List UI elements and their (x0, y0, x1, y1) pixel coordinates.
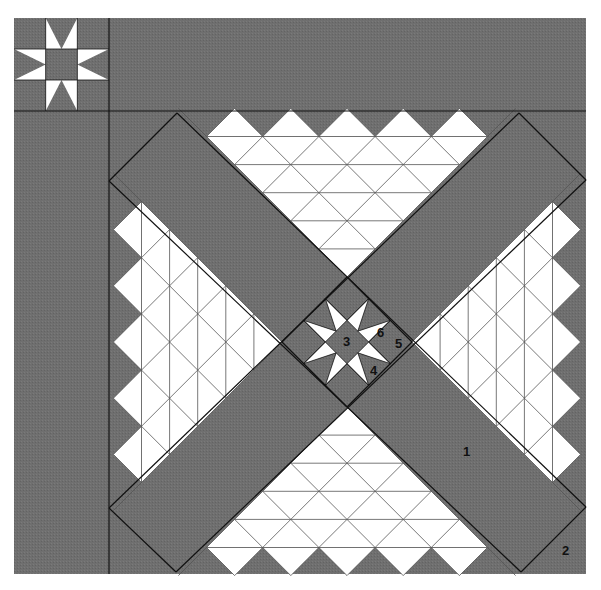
piece-label-2: 2 (562, 543, 569, 558)
piece-label-3: 3 (343, 334, 350, 349)
piece-label-6: 6 (377, 325, 384, 340)
piece-label-4: 4 (370, 363, 378, 378)
quilt-diagram: 1 2 3 4 5 6 (0, 0, 601, 590)
piece-label-5: 5 (395, 336, 402, 351)
piece-label-1: 1 (463, 444, 470, 459)
